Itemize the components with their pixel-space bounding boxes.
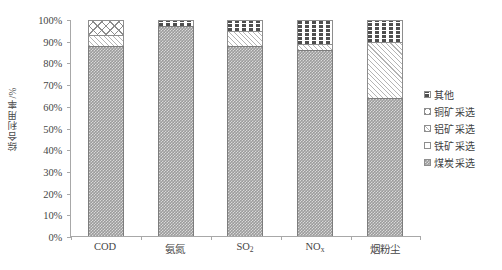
y-axis-tick-mark — [67, 85, 71, 86]
bar-segment[interactable] — [297, 20, 333, 44]
bar-segment[interactable] — [227, 31, 263, 46]
bar-segment[interactable] — [297, 50, 333, 236]
x-axis-tick-label: SO2 — [210, 241, 280, 256]
y-axis-tick-mark — [67, 20, 71, 21]
bar-segment[interactable] — [158, 26, 194, 236]
bar-slot — [141, 20, 211, 236]
bar-segment[interactable] — [227, 46, 263, 236]
y-axis-tick-mark — [67, 172, 71, 173]
bar-stack[interactable] — [158, 20, 194, 236]
y-axis-tick-label: 90% — [43, 36, 62, 47]
y-axis-tick-mark — [67, 129, 71, 130]
y-axis-tick-mark — [67, 194, 71, 195]
y-axis-tick-label: 0% — [48, 232, 62, 243]
x-axis-tick-labels: COD氨氮SO2NOx烟粉尘 — [70, 241, 420, 256]
x-axis-tick-mark — [71, 236, 72, 240]
bar-stack[interactable] — [88, 20, 124, 236]
bar-slot — [280, 20, 350, 236]
legend-item[interactable]: 煤炭采选 — [424, 154, 500, 171]
legend-item[interactable]: 其他 — [424, 86, 500, 103]
x-axis-tick-label: 氨氮 — [140, 241, 210, 256]
y-axis-tick-labels: 0%10%20%30%40%50%60%70%80%90%100% — [18, 14, 66, 238]
y-axis-tick-label: 30% — [43, 166, 62, 177]
x-axis-tick-label: 烟粉尘 — [350, 241, 420, 256]
legend-swatch-icon — [424, 159, 431, 166]
y-axis-tick-label: 60% — [43, 101, 62, 112]
legend-item-label: 铝矿采选 — [434, 121, 475, 136]
x-axis-tick-mark — [141, 236, 142, 240]
x-axis-tick-mark — [211, 236, 212, 240]
bar-group — [71, 20, 420, 236]
bar-stack[interactable] — [367, 20, 403, 236]
y-axis-tick-mark — [67, 107, 71, 108]
y-axis-tick-mark — [67, 42, 71, 43]
y-axis-tick-mark — [67, 63, 71, 64]
bar-segment[interactable] — [88, 35, 124, 46]
legend-item[interactable]: 铝矿采选 — [424, 120, 500, 137]
legend-item-label: 铁矿采选 — [434, 138, 475, 153]
bar-slot — [71, 20, 141, 236]
y-axis-tick-label: 50% — [43, 123, 62, 134]
bar-segment[interactable] — [367, 98, 403, 236]
y-axis-tick-label: 80% — [43, 58, 62, 69]
y-axis-tick-mark — [67, 150, 71, 151]
legend-item[interactable]: 铁矿采选 — [424, 137, 500, 154]
stacked-bar-chart: 综合利用率/% 0%10%20%30%40%50%60%70%80%90%100… — [0, 0, 502, 270]
x-axis-tick-label: NOx — [280, 241, 350, 256]
y-axis-tick-label: 70% — [43, 80, 62, 91]
bar-segment[interactable] — [88, 46, 124, 236]
legend-swatch-icon — [424, 125, 431, 132]
legend-item[interactable]: 铜矿采选 — [424, 103, 500, 120]
y-axis-tick-label: 10% — [43, 210, 62, 221]
y-axis-tick-label: 20% — [43, 188, 62, 199]
legend-item-label: 其他 — [434, 87, 455, 102]
y-axis-tick-label: 40% — [43, 145, 62, 156]
x-axis-tick-mark — [351, 236, 352, 240]
bar-slot — [350, 20, 420, 236]
chart-legend: 其他铜矿采选铝矿采选铁矿采选煤炭采选 — [424, 86, 500, 171]
legend-item-label: 铜矿采选 — [434, 104, 475, 119]
legend-item-label: 煤炭采选 — [434, 155, 475, 170]
x-axis-tick-label: COD — [70, 241, 140, 256]
x-axis-tick-mark — [281, 236, 282, 240]
legend-swatch-icon — [424, 108, 431, 115]
bar-stack[interactable] — [297, 20, 333, 236]
legend-swatch-icon — [424, 142, 431, 149]
legend-swatch-icon — [424, 91, 431, 98]
bar-segment[interactable] — [227, 20, 263, 31]
x-axis-tick-mark — [420, 236, 421, 240]
bar-stack[interactable] — [227, 20, 263, 236]
bar-segment[interactable] — [367, 42, 403, 98]
y-axis-tick-mark — [67, 215, 71, 216]
bar-segment[interactable] — [88, 20, 124, 35]
plot-area — [70, 20, 420, 237]
bar-slot — [211, 20, 281, 236]
y-axis-tick-label: 100% — [38, 15, 62, 26]
bar-segment[interactable] — [367, 20, 403, 42]
